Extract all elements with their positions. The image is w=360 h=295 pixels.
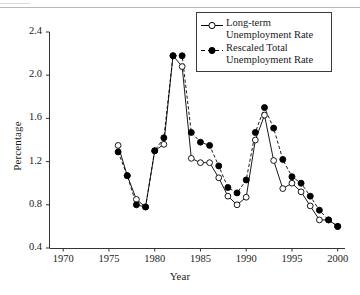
data-point-marker: [179, 53, 185, 59]
data-point-marker: [161, 135, 167, 141]
series-line: [118, 56, 338, 227]
data-point-marker: [216, 175, 222, 181]
data-point-marker: [152, 148, 158, 154]
data-point-marker: [262, 112, 268, 118]
legend-label-rescaled-total: Rescaled Total Unemployment Rate: [226, 42, 313, 66]
legend-item-rescaled-total: Rescaled Total Unemployment Rate: [201, 42, 327, 66]
data-point-marker: [307, 203, 313, 209]
x-tick-label: 2000: [318, 253, 358, 264]
y-tick-label: 1.6: [12, 111, 42, 122]
data-point-marker: [271, 125, 277, 131]
data-point-marker: [161, 141, 167, 147]
data-point-marker: [207, 142, 213, 148]
chart-legend: Long-term Unemployment Rate Rescaled Tot…: [196, 12, 332, 72]
data-point-marker: [188, 129, 194, 135]
legend-marker-filled-circle-icon: [201, 43, 223, 56]
data-point-marker: [188, 155, 194, 161]
data-point-marker: [298, 189, 304, 195]
data-point-marker: [225, 193, 231, 199]
data-point-marker: [298, 180, 304, 186]
data-point-marker: [179, 64, 185, 70]
data-point-marker: [225, 185, 231, 191]
data-point-marker: [198, 160, 204, 166]
y-tick-label: 2.4: [12, 25, 42, 36]
data-point-marker: [289, 180, 295, 186]
data-point-marker: [289, 174, 295, 180]
x-tick-label: 1970: [43, 253, 83, 264]
data-point-marker: [252, 137, 258, 143]
data-point-marker: [316, 217, 322, 223]
data-point-marker: [124, 173, 130, 179]
data-point-marker: [197, 139, 203, 145]
data-point-marker: [115, 149, 121, 155]
data-point-marker: [280, 156, 286, 162]
y-axis-ticks: [46, 32, 50, 248]
y-tick-label: 0.4: [12, 241, 42, 252]
data-point-marker: [316, 207, 322, 213]
x-tick-label: 1990: [226, 253, 266, 264]
y-tick-label: 1.2: [12, 155, 42, 166]
data-point-marker: [243, 177, 249, 183]
y-tick-label: 2.0: [12, 68, 42, 79]
data-point-marker: [170, 53, 176, 59]
data-point-marker: [207, 160, 213, 166]
chart-figure: Percentage Year 0.40.81.21.62.02.4 19701…: [0, 0, 360, 295]
x-tick-label: 1980: [135, 253, 175, 264]
data-point-marker: [335, 223, 341, 229]
data-point-marker: [133, 202, 139, 208]
data-point-marker: [115, 143, 121, 149]
series-lines: [118, 56, 338, 227]
data-point-marker: [234, 202, 240, 208]
legend-item-long-term: Long-term Unemployment Rate: [201, 17, 327, 41]
x-tick-label: 1995: [272, 253, 312, 264]
data-point-marker: [216, 163, 222, 169]
data-point-marker: [252, 129, 258, 135]
series-markers: [115, 53, 341, 230]
x-axis-label: Year: [0, 270, 360, 282]
data-point-marker: [271, 158, 277, 164]
data-point-marker: [280, 186, 286, 192]
data-point-marker: [234, 190, 240, 196]
series-line: [118, 56, 338, 227]
data-point-marker: [261, 105, 267, 111]
x-tick-label: 1985: [180, 253, 220, 264]
y-tick-label: 0.8: [12, 198, 42, 209]
data-point-marker: [243, 194, 249, 200]
data-point-marker: [326, 217, 332, 223]
legend-marker-open-circle-icon: [201, 18, 223, 31]
data-point-marker: [307, 193, 313, 199]
data-point-marker: [143, 204, 149, 210]
x-tick-label: 1975: [89, 253, 129, 264]
legend-label-long-term: Long-term Unemployment Rate: [226, 17, 313, 41]
